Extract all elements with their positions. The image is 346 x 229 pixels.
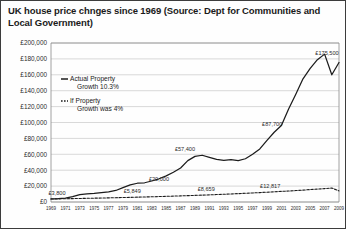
x-axis-tick-label: 2007 (320, 206, 331, 211)
gridlines (51, 43, 339, 202)
x-axis-tick-label: 1983 (147, 206, 158, 211)
x-axis-tick-label: 1971 (60, 206, 71, 211)
x-axis-tick-label: 1973 (75, 206, 86, 211)
data-point-label: £3,800 (48, 190, 65, 196)
legend-label: Actual Property (70, 75, 116, 83)
y-axis-tick-label: £0 (40, 198, 48, 205)
x-axis-tick-label: 1989 (190, 206, 201, 211)
x-axis-tick-label: 1975 (89, 206, 100, 211)
y-axis-tick-label: £120,000 (20, 103, 47, 110)
x-axis-tick-label: 1995 (233, 206, 244, 211)
data-point-label: £8,659 (198, 186, 215, 192)
y-axis-tick-label: £20,000 (24, 182, 48, 189)
legend-label: If Property (70, 97, 101, 105)
y-axis-tick-label: £160,000 (20, 71, 47, 78)
legend-label: Growth was 4% (77, 105, 123, 112)
legend-label: Growth 10.3% (77, 83, 119, 90)
y-axis-tick-label: £40,000 (24, 167, 48, 174)
plot-area: £0£20,000£40,000£60,000£80,000£100,000£1… (1, 34, 346, 229)
data-point-label: £57,400 (175, 146, 195, 152)
data-point-label: £175,500 (315, 50, 338, 56)
x-axis-tick-label: 1999 (262, 206, 273, 211)
x-axis-tick-label: 1981 (132, 206, 143, 211)
data-point-label: £20,000 (149, 176, 169, 182)
x-axis-tick-label: 1997 (248, 206, 259, 211)
y-axis-tick-label: £140,000 (20, 87, 47, 94)
x-axis-tick-label: 2009 (334, 206, 345, 211)
x-axis-tick-label: 1969 (46, 206, 57, 211)
data-point-label: £87,700 (262, 121, 282, 127)
y-axis-tick-label: £180,000 (20, 55, 47, 62)
y-axis-tick-label: £100,000 (20, 119, 47, 126)
data-point-labels: £3,800£5,849£8,659£20,000£57,400£12,817£… (48, 50, 338, 196)
chart-window: UK house price chnges since 1969 (Source… (0, 0, 346, 229)
data-point-label: £5,849 (124, 188, 141, 194)
chart-title: UK house price chnges since 1969 (Source… (8, 5, 334, 29)
y-axis-tick-label: £80,000 (24, 135, 48, 142)
x-axis-tick-label: 1985 (161, 206, 172, 211)
x-axis-labels: 1969197119731975197719791981198319851987… (46, 206, 345, 211)
x-axis-tick-label: 1987 (176, 206, 187, 211)
x-axis-tick-label: 2001 (276, 206, 287, 211)
x-axis-tick-label: 1977 (104, 206, 115, 211)
x-axis-tick-label: 2003 (291, 206, 302, 211)
x-axis-tick-label: 2005 (305, 206, 316, 211)
x-axis-tick-label: 1991 (204, 206, 215, 211)
y-axis-tick-label: £200,000 (20, 39, 47, 46)
y-axis-labels: £0£20,000£40,000£60,000£80,000£100,000£1… (20, 39, 47, 205)
line-chart: £0£20,000£40,000£60,000£80,000£100,000£1… (1, 34, 346, 229)
y-axis-tick-label: £60,000 (24, 151, 48, 158)
x-axis-tick-label: 1979 (118, 206, 129, 211)
data-point-label: £12,817 (260, 183, 280, 189)
x-axis-tick-label: 1993 (219, 206, 230, 211)
